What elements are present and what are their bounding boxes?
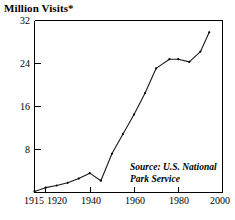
data-point <box>111 153 113 155</box>
x-tick-label-1915: 1915 <box>24 195 44 206</box>
x-tick-label-1980: 1980 <box>169 195 189 206</box>
x-tick-label-1960: 1960 <box>125 195 145 206</box>
data-point <box>44 187 46 189</box>
y-tick-label-24: 24 <box>20 58 30 69</box>
data-point <box>33 190 35 192</box>
x-tick-label-2000: 2000 <box>210 195 230 206</box>
data-point <box>177 58 179 60</box>
line-chart-plot: 32 24 16 8 1915 1920 1940 1960 1980 2000… <box>0 0 235 220</box>
data-point <box>122 133 124 135</box>
x-tick-label-1940: 1940 <box>81 195 101 206</box>
data-point <box>199 51 201 53</box>
x-axis-ticks <box>35 187 223 193</box>
data-point <box>56 184 58 186</box>
data-point <box>100 180 102 182</box>
source-note-line-1: Source: U.S. National <box>130 162 217 172</box>
chart-container: Million Visits* 32 24 16 8 <box>0 0 235 220</box>
y-tick-label-8: 8 <box>25 144 30 155</box>
y-tick-label-32: 32 <box>20 15 30 26</box>
data-point <box>208 31 210 33</box>
data-point <box>78 177 80 179</box>
y-axis-ticks <box>35 21 41 150</box>
data-point <box>168 58 170 60</box>
data-point <box>144 92 146 94</box>
data-point <box>188 61 190 63</box>
source-note-line-2: Park Service <box>130 174 181 184</box>
x-tick-label-1920: 1920 <box>47 195 67 206</box>
data-point <box>155 67 157 69</box>
data-point <box>133 113 135 115</box>
data-point <box>67 182 69 184</box>
y-tick-label-16: 16 <box>20 101 30 112</box>
data-point <box>89 172 91 174</box>
